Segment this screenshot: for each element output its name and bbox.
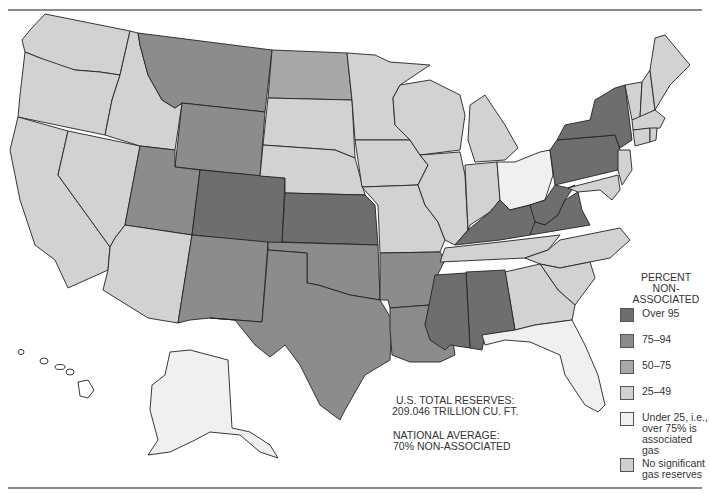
legend-label: No significant gas reserves: [642, 458, 705, 480]
legend-item-25-49: 25–49: [620, 386, 671, 400]
state-connecticut: [633, 128, 650, 146]
legend-title: PERCENT NON-ASSOCIATED: [620, 272, 710, 305]
legend-swatch: [620, 386, 634, 400]
state-hawaii: [18, 350, 94, 399]
state-alaska: [148, 350, 278, 458]
state-arizona: [103, 225, 192, 323]
state-new-jersey: [618, 150, 632, 185]
legend-item-under-25: Under 25, i.e., over 75% is associated g…: [620, 412, 710, 456]
us-states-map: [0, 0, 710, 494]
state-kansas: [282, 193, 378, 245]
legend-label: 75–94: [642, 334, 671, 345]
national-average-note: NATIONAL AVERAGE: 70% NON-ASSOCIATED: [393, 430, 511, 452]
legend-label: 25–49: [642, 386, 671, 397]
legend-label: 50–75: [642, 360, 671, 371]
map-states: [10, 14, 690, 458]
state-maine: [650, 35, 690, 110]
legend-item-no-significant: No significant gas reserves: [620, 458, 705, 480]
legend-swatch: [620, 458, 634, 472]
legend-title-line2: NON-ASSOCIATED: [620, 283, 710, 305]
state-wyoming: [175, 103, 265, 176]
legend-item-over-95: Over 95: [620, 308, 679, 322]
national-average-value: 70% NON-ASSOCIATED: [393, 441, 511, 452]
state-rhode-island: [650, 128, 657, 142]
state-michigan: [468, 95, 518, 162]
state-new-mexico: [178, 235, 268, 323]
legend-swatch: [620, 308, 634, 322]
legend-label: Under 25, i.e., over 75% is associated g…: [642, 412, 710, 456]
legend-label: Over 95: [642, 308, 679, 319]
legend-swatch: [620, 334, 634, 348]
legend-swatch: [620, 412, 634, 426]
total-reserves-value: 209.046 TRILLION CU. FT.: [392, 406, 518, 417]
state-north-dakota: [268, 50, 352, 100]
legend-swatch: [620, 360, 634, 374]
total-reserves-note: U.S. TOTAL RESERVES: 209.046 TRILLION CU…: [392, 395, 518, 417]
legend-item-50-75: 50–75: [620, 360, 671, 374]
state-colorado: [192, 170, 285, 245]
legend-item-75-94: 75–94: [620, 334, 671, 348]
